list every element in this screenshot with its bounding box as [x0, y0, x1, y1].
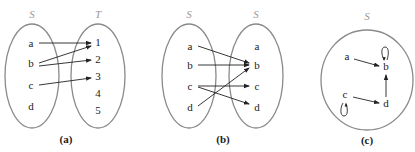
element-b: b — [28, 57, 34, 69]
element-c: c — [29, 79, 34, 91]
loop-c-arrowhead-icon — [345, 103, 348, 107]
relation-diagrams: S T a b c d 1 2 3 4 5 (a) S S a b c d a … — [0, 0, 415, 152]
set-label-s-right: S — [253, 8, 259, 20]
element-b-left: b — [187, 59, 193, 71]
arrow-a-b — [198, 46, 249, 63]
set-label-s-left: S — [186, 8, 192, 20]
element-d: d — [28, 100, 34, 112]
element-a-c: a — [345, 50, 350, 62]
set-label-s: S — [29, 8, 35, 20]
element-d-c: d — [383, 97, 389, 109]
panel-a: S T a b c d 1 2 3 4 5 (a) — [5, 8, 125, 146]
element-2: 2 — [95, 53, 101, 65]
element-5: 5 — [95, 104, 101, 116]
element-a-right: a — [255, 40, 260, 52]
panel-c: S a b c d (c) — [321, 10, 413, 147]
element-a: a — [29, 37, 34, 49]
arrow-d-b — [198, 68, 249, 106]
element-d-right: d — [254, 101, 260, 113]
element-c-c: c — [343, 88, 348, 100]
caption-b: (b) — [216, 133, 230, 146]
arrow-c-3 — [39, 78, 91, 85]
set-s-ellipse-c — [321, 30, 413, 130]
arrow-c-d — [198, 87, 249, 104]
element-b-right: b — [254, 59, 260, 71]
caption-c: (c) — [361, 134, 374, 147]
arrow-c-d-c — [353, 97, 379, 103]
element-c-left: c — [188, 80, 193, 92]
element-1: 1 — [95, 36, 101, 48]
element-c-right: c — [255, 80, 260, 92]
panel-b: S S a b c d a b c d (b) — [162, 8, 283, 146]
element-4: 4 — [95, 87, 101, 99]
element-a-left: a — [188, 40, 193, 52]
set-label-s-c: S — [364, 10, 370, 22]
element-b-c: b — [383, 60, 389, 72]
arrow-a-b-c — [354, 59, 379, 66]
set-label-t: T — [95, 8, 102, 20]
element-d-left: d — [187, 101, 193, 113]
element-3: 3 — [95, 70, 101, 82]
caption-a: (a) — [60, 133, 73, 146]
